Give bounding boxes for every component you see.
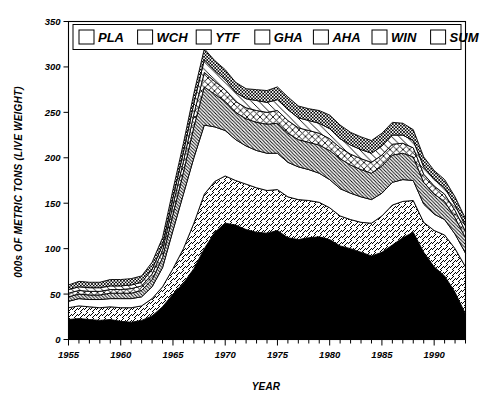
area-bands bbox=[69, 49, 466, 340]
x-tick-label-1985: 1985 bbox=[371, 349, 393, 360]
stacked-area-chart: 050100150200250300350 195519601965197019… bbox=[0, 0, 488, 407]
y-tick-label-100: 100 bbox=[45, 243, 62, 254]
legend-label-win: WIN bbox=[391, 30, 417, 45]
x-tick-label-1960: 1960 bbox=[110, 349, 132, 360]
y-tick-label-150: 150 bbox=[45, 198, 62, 209]
x-tick-label-1965: 1965 bbox=[162, 349, 184, 360]
x-tick-label-1980: 1980 bbox=[319, 349, 341, 360]
y-tick-label-300: 300 bbox=[45, 61, 62, 72]
legend-label-wch: WCH bbox=[157, 30, 189, 45]
y-tick-label-50: 50 bbox=[50, 289, 61, 300]
y-axis-tick-labels: 050100150200250300350 bbox=[44, 16, 62, 345]
x-tick-label-1970: 1970 bbox=[215, 349, 237, 360]
legend-label-gha: GHA bbox=[274, 30, 303, 45]
x-tick-label-1990: 1990 bbox=[424, 349, 446, 360]
y-axis-title: 000s OF METRIC TONS (LIVE WEIGHT) bbox=[13, 86, 24, 278]
y-tick-label-200: 200 bbox=[44, 152, 62, 163]
legend-label-sum: SUM bbox=[450, 30, 480, 45]
chart-legend: PLAWCHYTFGHAAHAWINSUM bbox=[73, 25, 480, 50]
x-tick-label-1955: 1955 bbox=[58, 349, 80, 360]
x-axis-title: YEAR bbox=[252, 381, 281, 392]
chart-figure: 050100150200250300350 195519601965197019… bbox=[0, 0, 488, 407]
legend-label-ytf: YTF bbox=[215, 30, 241, 45]
x-axis-tick-labels: 19551960196519701975198019851990 bbox=[58, 349, 446, 360]
legend-label-pla: PLA bbox=[98, 30, 124, 45]
y-tick-label-250: 250 bbox=[44, 107, 62, 118]
legend-label-aha: AHA bbox=[331, 30, 360, 45]
y-tick-label-350: 350 bbox=[45, 16, 62, 27]
y-tick-label-0: 0 bbox=[55, 334, 61, 345]
x-tick-label-1975: 1975 bbox=[267, 349, 289, 360]
